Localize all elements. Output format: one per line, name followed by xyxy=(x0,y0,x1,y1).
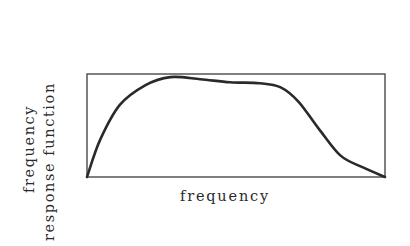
plot-frame xyxy=(87,74,385,177)
y-axis-label: frequency response function xyxy=(21,82,57,241)
frequency-response-chart: frequency response function frequency xyxy=(0,0,410,246)
y-axis-label-line-2: response function xyxy=(41,82,57,241)
y-axis-label-line-1: frequency xyxy=(21,105,37,193)
x-axis-label: frequency xyxy=(180,188,270,204)
response-curve xyxy=(87,77,385,177)
